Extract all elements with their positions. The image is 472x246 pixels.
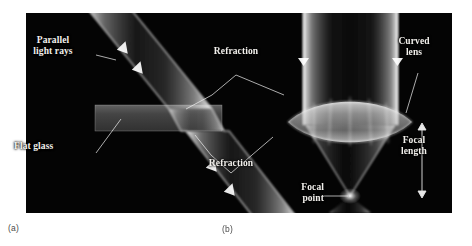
label-refraction-top: Refraction [191, 46, 281, 57]
flat-glass-slab [95, 105, 222, 131]
label-refraction-bottom: Refraction [186, 158, 276, 169]
label-curved-lens: Curved lens [381, 36, 447, 58]
label-focal-length: Focal length [383, 135, 445, 157]
panel-caption-b: (b) [222, 224, 233, 234]
label-parallel-light-rays: Parallel light rays [14, 35, 92, 57]
label-flat-glass: Flat glass [14, 141, 92, 152]
refraction-figure: Parallel light rays Flat glass Refractio… [0, 0, 472, 246]
panel-caption-a: (a) [8, 223, 19, 233]
label-focal-point: Focal point [258, 182, 324, 204]
